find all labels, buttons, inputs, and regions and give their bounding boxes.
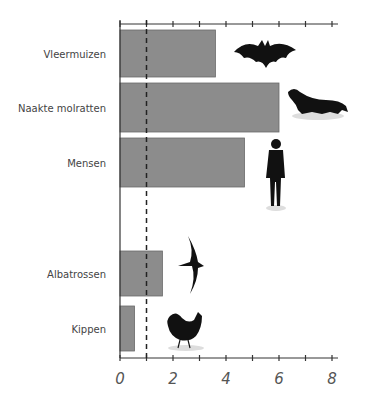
naked-mole-rat-icon [288, 89, 348, 120]
chicken-icon [167, 312, 204, 351]
x-tick-label: 4 [221, 370, 231, 388]
category-label: Kippen [71, 324, 106, 335]
bar-mensen [120, 138, 245, 187]
bar-kippen [120, 306, 135, 351]
bat-icon [234, 40, 296, 68]
x-tick-label: 2 [168, 370, 178, 388]
category-label: Naakte molratten [18, 103, 106, 114]
category-label: Albatrossen [47, 269, 106, 280]
bar-chart: 02468 VleermuizenNaakte molrattenMensenA… [0, 0, 368, 407]
x-tick-label: 8 [327, 370, 337, 388]
albatross-icon [178, 236, 204, 294]
human-icon [266, 139, 286, 211]
category-label: Mensen [67, 158, 106, 169]
bar-vleermuizen [120, 30, 215, 77]
x-tick-label: 0 [115, 370, 125, 388]
bar-albatrossen [120, 251, 162, 296]
bar-naakte-molratten [120, 83, 279, 132]
category-label: Vleermuizen [44, 49, 106, 60]
x-tick-label: 6 [274, 370, 284, 388]
